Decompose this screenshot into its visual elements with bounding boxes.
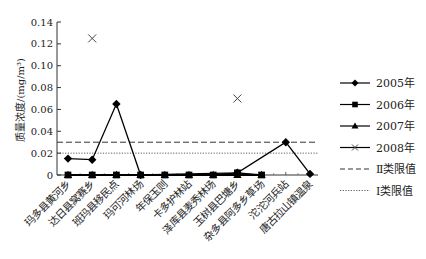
legend-item: Ⅰ类限值: [340, 184, 413, 198]
diamond-marker: [88, 156, 96, 164]
y-tick-label: 0.12: [31, 38, 53, 49]
diamond-marker: [64, 154, 72, 162]
series-2005年: [64, 100, 314, 179]
square-marker: [89, 172, 96, 179]
square-marker: [186, 172, 193, 179]
legend-label: Ⅰ类限值: [376, 184, 413, 198]
series-2008年: [88, 34, 241, 102]
legend-item: 2006年: [340, 98, 415, 112]
y-axis-title: 质量浓度/(mg/m³): [14, 58, 26, 142]
x-axis-labels: 玛多县黄河乡达日县窝赛乡班玛县移民点玛可河林场年保玉则卡多护林站泽库县麦秀林场玉…: [22, 177, 316, 243]
line-chart: 00.020.040.060.080.100.120.14 玛多县黄河乡达日县窝…: [0, 0, 426, 259]
legend-item: Ⅱ类限值: [340, 162, 416, 176]
y-tick-label: 0.02: [31, 148, 53, 159]
legend-label: 2008年: [376, 141, 415, 155]
square-marker: [113, 172, 120, 179]
legend-label: 2006年: [376, 98, 415, 112]
square-marker: [258, 172, 265, 179]
legend-label: 2005年: [376, 76, 415, 90]
legend-label: 2007年: [376, 119, 415, 133]
chart-container: 00.020.040.060.080.100.120.14 玛多县黄河乡达日县窝…: [0, 0, 426, 259]
legend-item: 2007年: [340, 119, 415, 133]
y-tick-label: 0.04: [31, 126, 53, 137]
y-tick-label: 0.08: [31, 82, 53, 93]
y-tick-label: 0.10: [31, 60, 53, 71]
legend-diamond-marker: [352, 80, 359, 87]
y-tick-label: 0.06: [31, 104, 53, 115]
series-line: [68, 104, 310, 175]
legend: 2005年2006年2007年2008年Ⅱ类限值Ⅰ类限值: [340, 76, 416, 198]
legend-label: Ⅱ类限值: [376, 162, 416, 176]
square-marker: [65, 172, 72, 179]
legend-square-marker: [352, 102, 358, 108]
data-series: [64, 34, 314, 179]
square-marker: [210, 172, 217, 179]
legend-item: 2005年: [340, 76, 415, 90]
y-tick-label: 0: [47, 170, 53, 181]
axes: 00.020.040.060.080.100.120.14: [31, 17, 318, 181]
diamond-marker: [112, 100, 120, 108]
legend-item: 2008年: [340, 141, 415, 155]
y-tick-label: 0.14: [31, 17, 53, 28]
